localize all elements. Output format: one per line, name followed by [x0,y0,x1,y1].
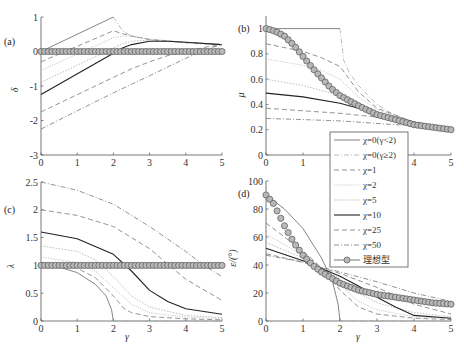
y-tick-label: 0 [33,46,38,57]
panel-a-delta: 012345-3-2-101(a)δ [4,12,225,169]
y-axis-label: μ [235,92,246,98]
x-tick-label: 1 [301,157,306,168]
y-tick-label: 1 [258,23,263,34]
legend-label: χ=10 [362,210,382,220]
legend-label: χ=2 [362,180,377,190]
x-tick-label: 1 [301,323,306,334]
ideal-series-markers [38,48,225,54]
y-axis-label: λ [5,263,16,269]
x-axis-label: γ [356,331,361,342]
y-tick-label: 0.8 [251,48,264,59]
y-tick-label: 0.5 [26,288,39,299]
y-tick-label: 60 [253,232,263,243]
y-tick-label: -1 [30,81,38,92]
y-tick-label: 40 [253,260,263,271]
y-axis-label: ε/(°) [227,249,239,267]
y-tick-label: 100 [248,176,263,187]
series-line [41,210,222,301]
x-tick-label: 4 [183,157,188,168]
x-tick-label: 5 [449,157,454,168]
y-tick-label: -3 [30,150,38,161]
series-line [340,29,451,130]
y-tick-label: 1 [33,260,38,271]
legend-label: χ=50 [362,240,382,250]
series-line [41,232,222,314]
x-tick-label: 0 [264,323,269,334]
figure: 012345-3-2-101(a)δ 01234500.20.40.60.81(… [0,0,464,353]
x-tick-label: 4 [183,323,188,334]
series-line [41,17,113,52]
y-tick-label: 0.2 [251,124,264,135]
x-tick-label: 1 [75,323,80,334]
y-tick-label: 0 [258,316,263,327]
y-tick-label: 80 [253,204,263,215]
legend-label: χ=1 [362,165,377,175]
series-line [113,17,222,45]
y-tick-label: 20 [253,288,263,299]
legend-label: χ=5 [362,195,377,205]
x-tick-label: 5 [449,323,454,334]
x-tick-label: 1 [75,157,80,168]
y-tick-label: 1.5 [26,232,39,243]
y-tick-label: 0 [33,316,38,327]
panel-label: (b) [238,23,250,35]
legend-label: χ=0(γ≥2) [362,150,396,160]
x-tick-label: 5 [220,323,225,334]
ideal-series-markers [38,262,225,268]
ideal-series-markers [263,26,454,133]
x-axis-label: γ [125,331,130,342]
legend-label: χ=25 [362,225,382,235]
legend: χ=0(γ<2)χ=0(γ≥2)χ=1χ=2χ=5χ=10χ=25χ=50理想型 [330,132,408,267]
x-tick-label: 5 [220,157,225,168]
y-tick-label: 0 [258,150,263,161]
y-tick-label: 2.5 [26,177,39,188]
x-tick-label: 3 [147,323,152,334]
series-line [41,246,222,318]
series-line [41,45,222,130]
y-tick-label: 0.4 [251,99,264,110]
x-tick-label: 0 [264,157,269,168]
y-tick-label: 1 [33,12,38,23]
legend-label: χ=0(γ<2) [362,135,396,145]
panel-c-lambda: 01234500.511.522.5(c)λγ [4,177,225,343]
y-axis-label: δ [9,87,20,92]
series-line [41,31,222,62]
y-tick-label: 0.6 [251,74,264,85]
y-tick-label: -2 [30,115,38,126]
circle-marker-icon [344,257,350,263]
panel-label: (a) [4,36,15,48]
x-tick-label: 3 [147,157,152,168]
series-line [41,265,113,321]
panel-label: (c) [4,204,15,216]
legend-label: 理想型 [363,254,390,265]
series-line [41,40,222,82]
y-tick-label: 2 [33,204,38,215]
x-tick-label: 4 [412,323,417,334]
x-tick-label: 0 [39,157,44,168]
x-tick-label: 2 [111,157,116,168]
x-tick-label: 3 [375,323,380,334]
panel-label: (d) [238,188,250,200]
x-tick-label: 4 [412,157,417,168]
series-line [266,44,451,130]
x-tick-label: 0 [39,323,44,334]
x-tick-label: 2 [111,323,116,334]
x-tick-label: 2 [338,323,343,334]
